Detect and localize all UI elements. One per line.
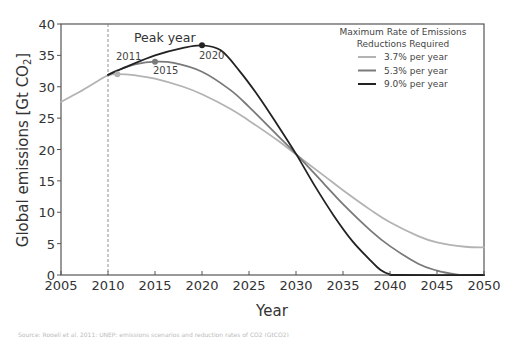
x-tick-label: 2040 [373,278,406,293]
legend-item-label: 3.7% per year [384,52,448,62]
x-tick-label: 2015 [138,278,171,293]
legend-item-label: 5.3% per year [384,66,448,76]
x-tick-label: 2035 [326,278,359,293]
y-tick-label: 5 [47,237,55,252]
peak-year-label: Peak year [134,30,196,45]
y-tick-label: 25 [38,111,55,126]
y-tick-label: 40 [38,17,55,32]
legend: Maximum Rate of EmissionsReductions Requ… [340,27,467,89]
annotations: Peak year201120152020 [116,30,224,76]
x-tick-label: 2050 [467,278,500,293]
legend-title: Maximum Rate of Emissions [340,27,467,37]
y-axis-ticks: 0510152025303540 [38,17,61,283]
legend-item-label: 9.0% per year [384,79,448,89]
y-tick-label: 15 [38,174,55,189]
x-tick-label: 2030 [279,278,312,293]
peak-marker-2020 [199,42,205,48]
peak-marker-2015 [152,59,158,65]
y-tick-label: 30 [38,80,55,95]
peak-year-annotation: 2011 [116,51,141,62]
x-tick-label: 2045 [420,278,453,293]
legend-title: Reductions Required [357,39,450,49]
emissions-chart: 2005201020152020202520302035204020452050… [0,0,515,340]
x-tick-label: 2020 [185,278,218,293]
figure-caption: Source: Rogelj et al. 2011; UNEP; emissi… [18,331,498,337]
series-line-2 [108,62,484,276]
y-tick-label: 20 [38,143,55,158]
x-tick-label: 2010 [91,278,124,293]
x-tick-label: 2025 [232,278,265,293]
y-axis-title: Global emissions [Gt CO2] [14,53,33,247]
peak-year-annotation: 2020 [199,50,224,61]
peak-year-annotation: 2015 [153,65,178,76]
y-tick-label: 35 [38,48,55,63]
peak-marker-2011 [114,71,120,77]
x-axis-title: Year [255,302,289,320]
y-tick-label: 0 [47,268,55,283]
series-line-1 [61,74,484,247]
y-tick-label: 10 [38,205,55,220]
